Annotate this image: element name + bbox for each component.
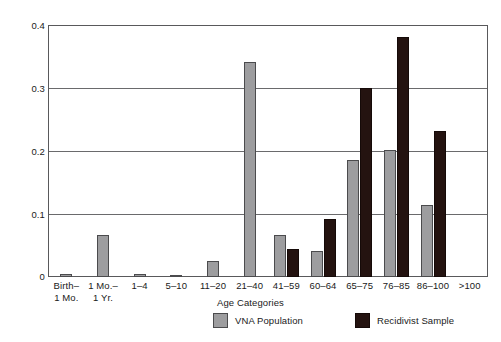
y-axis-tick-3: 0.1	[5, 210, 45, 220]
y-axis-tick-2: 0.2	[5, 147, 45, 157]
x-axis-label-3: 5–10	[158, 280, 195, 292]
bar-vna-10	[421, 205, 433, 277]
x-axis-title: Age Categories	[0, 297, 501, 308]
bar-vna-7	[311, 251, 323, 277]
x-axis-label-11: >100	[451, 280, 488, 292]
bars-layer	[48, 25, 488, 277]
y-axis-tick-4: 0	[5, 272, 45, 282]
legend-item-recidivist-sample: Recidivist Sample	[355, 313, 454, 328]
x-axis-label-7: 60–64	[305, 280, 342, 292]
legend-item-vna-population: VNA Population	[213, 313, 303, 328]
bar-vna-2	[134, 274, 146, 277]
x-axis-label-6: 41–59	[268, 280, 305, 292]
bar-rec-6	[287, 249, 299, 277]
dark-swatch-icon	[355, 313, 370, 328]
x-axis-label-8: 65–75	[341, 280, 378, 292]
y-axis-tick-0: 0.4	[5, 21, 45, 31]
gray-swatch-icon	[213, 313, 228, 328]
x-axis-label-10: 86–100	[415, 280, 452, 292]
bar-vna-1	[97, 235, 109, 277]
bar-rec-8	[360, 88, 372, 277]
bar-chart: 0.4 0.3 0.2 0.1 0 Birth– 1 Mo.1 Mo.– 1 Y…	[0, 0, 501, 342]
legend-label-vna-population: VNA Population	[235, 315, 303, 326]
x-axis-label-4: 11–20	[195, 280, 232, 292]
x-axis-label-5: 21–40	[231, 280, 268, 292]
x-axis-label-2: 1–4	[121, 280, 158, 292]
bar-vna-5	[244, 62, 256, 277]
bar-rec-9	[397, 37, 409, 277]
x-axis-label-9: 76–85	[378, 280, 415, 292]
bar-vna-9	[384, 150, 396, 277]
bar-vna-4	[207, 261, 219, 277]
chart-legend: VNA Population Recidivist Sample	[0, 313, 501, 335]
bar-rec-10	[434, 131, 446, 277]
bar-vna-6	[274, 235, 286, 277]
bar-vna-3	[170, 275, 182, 277]
bar-rec-7	[324, 219, 336, 277]
bar-vna-0	[60, 274, 72, 277]
y-axis-tick-1: 0.3	[5, 84, 45, 94]
legend-label-recidivist-sample: Recidivist Sample	[377, 315, 454, 326]
bar-vna-8	[347, 160, 359, 277]
